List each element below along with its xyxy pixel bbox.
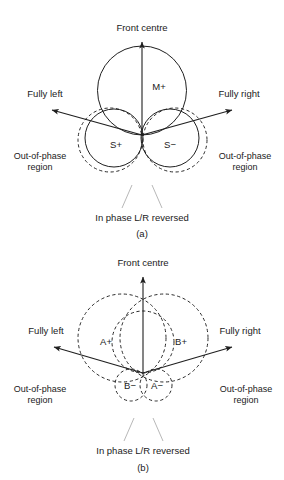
caption-a: (a): [136, 228, 148, 239]
label-b-plus: B+: [175, 336, 187, 347]
curve-side-plus: [85, 109, 143, 167]
label-fully-left-a: Fully left: [27, 88, 63, 99]
curve-a-plus: [78, 294, 166, 382]
label-out-of-phase-left-b-line1: Out-of-phase: [14, 384, 67, 394]
leader-left-b: [124, 418, 134, 441]
label-fully-right-b: Fully right: [219, 325, 261, 336]
label-out-of-phase-right-a-line2: region: [232, 162, 257, 172]
label-side-minus: S−: [164, 139, 176, 150]
label-mid-plus: M+: [152, 81, 166, 92]
label-fully-left-b: Fully left: [28, 325, 64, 336]
label-a-plus: A+: [100, 336, 112, 347]
label-fully-right-a: Fully right: [218, 88, 260, 99]
leader-left-a: [122, 185, 132, 208]
arrow-fully-right-b: [143, 347, 232, 373]
figure-root: Front centre Fully left Fully right M+ S…: [0, 0, 284, 480]
label-out-of-phase-left-b-line2: region: [27, 395, 52, 405]
polar-pattern-figure: Front centre Fully left Fully right M+ S…: [0, 0, 284, 480]
label-b-minus: B−: [124, 380, 136, 391]
caption-b: (b): [137, 462, 149, 473]
label-a-minus: A−: [151, 380, 163, 391]
leader-right-a: [152, 185, 162, 208]
label-out-of-phase-right-b-line1: Out-of-phase: [220, 384, 273, 394]
label-out-of-phase-left-a-line1: Out-of-phase: [14, 151, 67, 161]
label-out-of-phase-left-a-line2: region: [27, 162, 52, 172]
label-side-plus: S+: [110, 139, 122, 150]
panel-b: Front centre Fully left Fully right A+ B…: [14, 257, 273, 473]
label-out-of-phase-right-a-line1: Out-of-phase: [219, 151, 272, 161]
label-front-centre-a: Front centre: [116, 22, 167, 33]
panel-a: Front centre Fully left Fully right M+ S…: [14, 22, 272, 239]
label-in-phase-a: In phase L/R reversed: [95, 212, 188, 223]
label-in-phase-b: In phase L/R reversed: [96, 445, 189, 456]
leader-right-b: [153, 418, 163, 441]
label-front-centre-b: Front centre: [117, 257, 168, 268]
curve-side-minus: [141, 109, 199, 167]
arrow-fully-right-a: [142, 110, 232, 135]
arrow-fully-left-b: [54, 347, 143, 373]
label-out-of-phase-right-b-line2: region: [233, 395, 258, 405]
